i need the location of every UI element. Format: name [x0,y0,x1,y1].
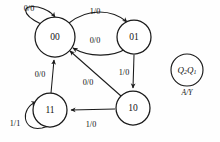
transition-label-00-01: 1/0 [90,7,100,16]
transition-label-11-00: 0/0 [35,70,45,79]
transition-10-to-11: 1/0 [71,109,115,129]
legend-key: Q2Q1 A/Y [171,54,203,97]
state-node-01[interactable]: 01 [117,20,151,54]
transition-arrow-10-00 [70,51,121,96]
state-label-10: 10 [128,103,138,113]
legend-q1-sub: 1 [194,70,197,76]
state-label-01: 01 [129,32,139,42]
transition-label-01-00: 0/0 [90,36,100,45]
state-node-00[interactable]: 00 [35,17,75,57]
state-diagram-canvas: 0/0 1/0 0/0 1/0 1/0 0/0 0/ [0,0,220,142]
transition-arrow-10-11 [71,109,115,110]
transition-label-01-10: 1/0 [119,68,129,77]
transition-label-00-self: 0/0 [24,4,34,13]
transition-arrow-11-00 [51,60,54,93]
transition-label-10-11: 1/0 [86,120,96,129]
transition-arrow-01-10 [133,55,134,88]
transition-arrow-01-00 [73,48,127,55]
transition-01-to-10: 1/0 [119,55,134,88]
transition-11-to-00: 0/0 [35,60,54,93]
state-node-10[interactable]: 10 [116,91,150,125]
transition-label-10-00: 0/0 [83,78,93,87]
state-label-00: 00 [50,32,60,42]
transition-00-to-01: 1/0 [69,7,127,23]
state-diagram-svg: 0/0 1/0 0/0 1/0 1/0 0/0 0/ [0,0,220,142]
legend-io-label: A/Y [181,88,194,97]
transition-10-to-00: 0/0 [70,51,121,96]
state-label-11: 11 [45,105,54,115]
transition-label-11-self: 1/1 [10,119,20,128]
state-node-11[interactable]: 11 [33,93,67,127]
